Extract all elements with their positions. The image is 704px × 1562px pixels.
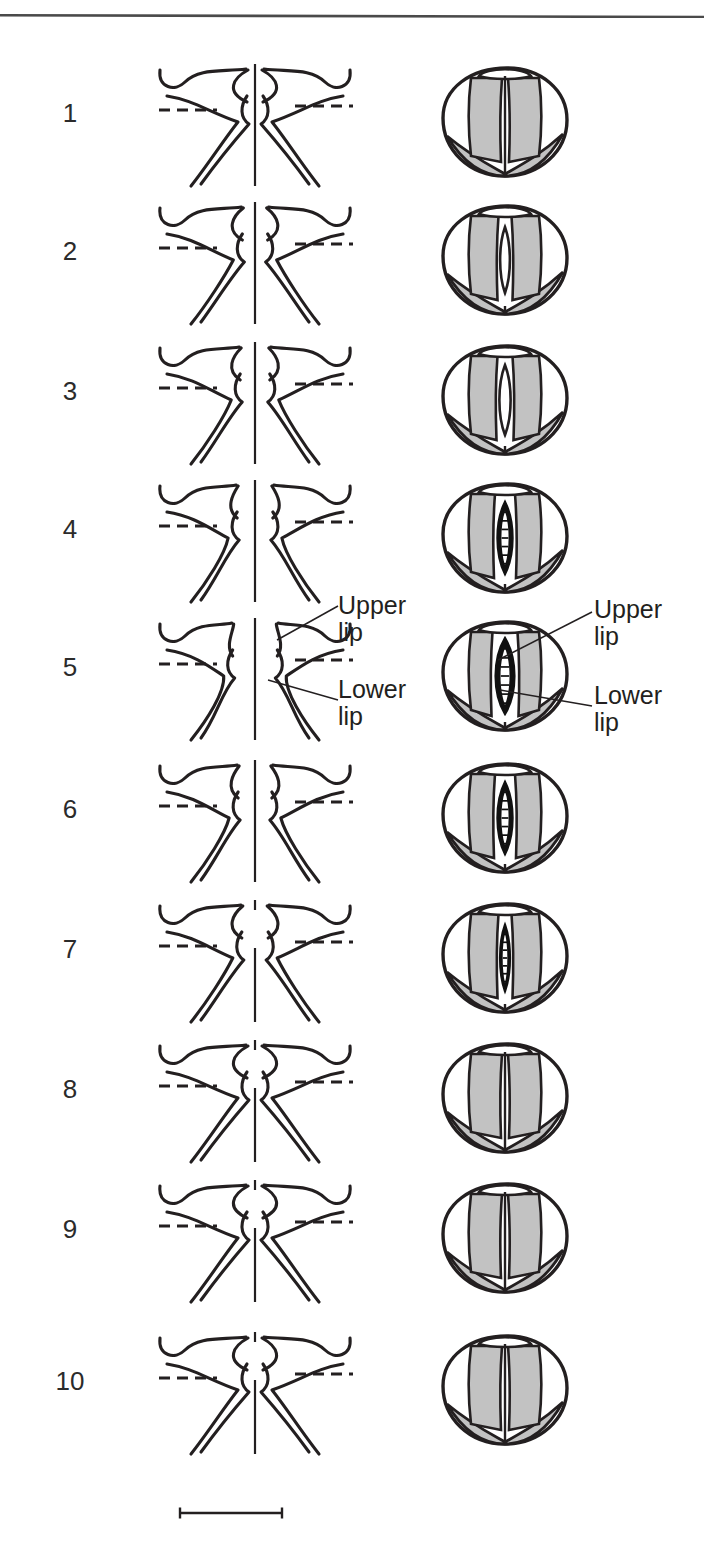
figure-root: 1 2 3 [0,0,704,1562]
cycle-phase-row: 6 [0,748,704,888]
phase-number-label: 6 [40,796,100,822]
phase-number-label: 10 [40,1368,100,1394]
superior-glottis-diagram [420,1320,590,1460]
cycle-phase-row: 3 [0,330,704,470]
callout-right-lower-lip: Lower lip [594,682,662,736]
cycle-phase-row: 9 [0,1168,704,1308]
phase-number-label: 3 [40,378,100,404]
coronal-section-diagram [140,606,370,746]
superior-glottis-diagram [420,1168,590,1308]
superior-glottis-diagram [420,330,590,470]
callout-left-upper-lip: Upper lip [338,592,406,646]
coronal-section-diagram [140,1028,370,1168]
top-divider-rule [0,14,704,18]
phase-number-label: 8 [40,1076,100,1102]
cycle-phase-row: 4 [0,468,704,608]
phase-number-label: 9 [40,1216,100,1242]
superior-glottis-diagram [420,748,590,888]
superior-glottis-diagram [420,190,590,330]
phase-number-label: 4 [40,516,100,542]
coronal-section-diagram [140,468,370,608]
cycle-phase-row: 2 [0,190,704,330]
coronal-section-diagram [140,1168,370,1308]
cycle-phase-row: 8 [0,1028,704,1168]
coronal-section-diagram [140,330,370,470]
phase-number-label: 7 [40,936,100,962]
superior-glottis-diagram [420,468,590,608]
phase-number-label: 2 [40,238,100,264]
superior-glottis-diagram [420,606,590,746]
coronal-section-diagram [140,1320,370,1460]
phase-number-label: 5 [40,654,100,680]
scale-bar [177,1505,287,1521]
superior-glottis-diagram [420,52,590,192]
cycle-phase-row: 7 [0,888,704,1028]
cycle-phase-row: 10 [0,1320,704,1460]
cycle-phase-row: 1 [0,52,704,192]
superior-glottis-diagram [420,888,590,1028]
coronal-section-diagram [140,52,370,192]
phase-number-label: 1 [40,100,100,126]
coronal-section-diagram [140,190,370,330]
coronal-section-diagram [140,888,370,1028]
callout-right-upper-lip: Upper lip [594,596,662,650]
callout-left-lower-lip: Lower lip [338,676,406,730]
coronal-section-diagram [140,748,370,888]
superior-glottis-diagram [420,1028,590,1168]
